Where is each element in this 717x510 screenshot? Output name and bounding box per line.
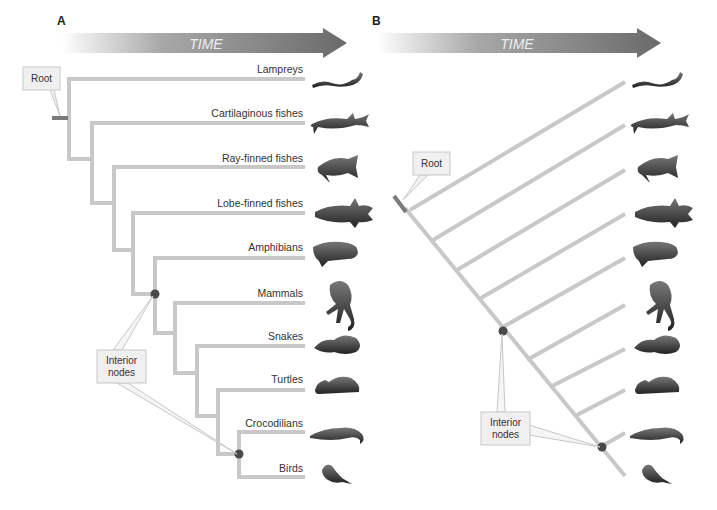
coelacanth-icon (635, 198, 693, 228)
taxon-label-ray-finned-fishes: Ray-finned fishes (222, 152, 303, 164)
panel-b-label: B (372, 14, 381, 28)
turtle-icon (315, 377, 359, 394)
taxon-label-lobe-finned-fishes: Lobe-finned fishes (217, 197, 303, 209)
taxon-label-lampreys: Lampreys (257, 63, 303, 75)
panel-a: A TIME (23, 14, 373, 484)
taxon-label-crocodilians: Crocodilians (245, 417, 303, 429)
taxon-label-birds: Birds (279, 462, 303, 474)
bird-icon (322, 465, 352, 484)
lamprey-icon (312, 72, 363, 88)
interior-node-b1 (499, 327, 508, 336)
root-callout-a: Root (23, 67, 60, 116)
root-callout-b: Root (403, 152, 450, 200)
animals-a (310, 72, 373, 484)
salamander-icon (633, 242, 678, 267)
interior-callout-a-line2: nodes (108, 367, 135, 378)
panel-b: B TIME Root Int (372, 14, 693, 484)
taxon-label-mammals: Mammals (257, 287, 303, 299)
root-callout-b-text: Root (421, 158, 442, 169)
animals-b (630, 72, 693, 484)
bird-icon (642, 465, 672, 484)
turtle-icon (635, 377, 679, 394)
snake-icon (314, 335, 360, 354)
ray-finned-fish-icon (318, 155, 359, 183)
interior-callout-b-line1: Interior (490, 417, 522, 428)
interior-callout-b-line2: nodes (492, 429, 519, 440)
time-arrow-b: TIME (377, 28, 661, 58)
shark-icon (631, 113, 689, 134)
salamander-icon (313, 242, 358, 267)
monkey-icon (326, 281, 354, 331)
interior-callout-a-line1: Interior (106, 355, 138, 366)
time-arrow-a: TIME (62, 28, 347, 58)
coelacanth-icon (315, 198, 373, 228)
taxon-label-turtles: Turtles (271, 373, 303, 385)
crocodile-icon (630, 428, 684, 444)
taxon-label-amphibians: Amphibians (248, 241, 303, 253)
crocodile-icon (310, 428, 364, 444)
panel-a-label: A (57, 14, 66, 28)
lamprey-icon (632, 72, 683, 88)
monkey-icon (646, 281, 674, 331)
shark-icon (311, 113, 369, 134)
phylogeny-figure: A TIME (0, 0, 717, 510)
snake-icon (634, 335, 680, 354)
taxon-label-cartilaginous-fishes: Cartilaginous fishes (211, 107, 303, 119)
ray-finned-fish-icon (638, 155, 679, 183)
time-arrow-a-label: TIME (189, 36, 223, 52)
taxon-label-snakes: Snakes (268, 330, 303, 342)
time-arrow-b-label: TIME (500, 36, 534, 52)
root-callout-a-text: Root (31, 73, 52, 84)
interior-node-a2 (235, 450, 244, 459)
